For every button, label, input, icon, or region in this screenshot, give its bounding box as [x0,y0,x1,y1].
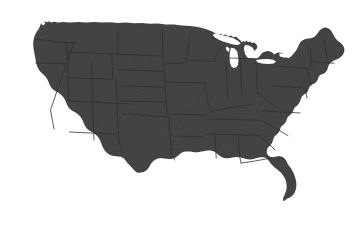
map-land-group [33,21,344,201]
mainland-path [33,21,344,201]
state-line-wy-sd-ne [112,54,113,79]
us-map-svg [0,0,362,226]
california-coast-notch [35,98,41,105]
monterey-bay-notch [41,111,47,117]
us-map-figure [0,0,362,226]
socal-coast-notch [53,130,63,138]
louisiana-coast [178,160,198,169]
